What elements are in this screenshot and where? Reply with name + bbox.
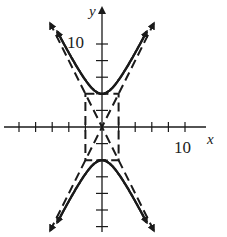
x-tick-label-10: 10 [174, 138, 191, 157]
y-tick-label-10: 10 [67, 33, 84, 52]
plot-area: x y 10 10 [0, 0, 227, 237]
axes [4, 8, 206, 232]
y-axis-label: y [87, 3, 96, 19]
hyperbola-graph: x y 10 10 [0, 0, 227, 237]
x-axis-label: x [206, 131, 214, 147]
